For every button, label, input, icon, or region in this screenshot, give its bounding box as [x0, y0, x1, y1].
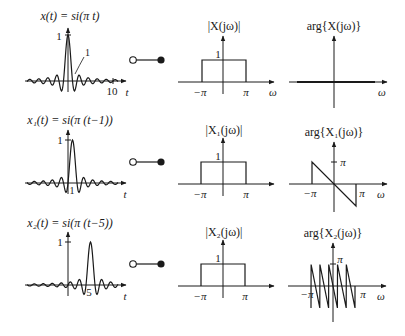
sinc-curve	[27, 35, 118, 91]
tick-label: 5	[86, 286, 92, 298]
tick-label: 1	[70, 185, 75, 196]
phase-plot-x2: arg{X₂(jω)} π −π π ω	[288, 226, 386, 322]
omega-axis-label: ω	[377, 188, 385, 200]
neg-pi-label: −π	[301, 288, 314, 300]
magnitude-plot-x: |X(jω)| 1 −π π ω	[178, 19, 277, 98]
peak-label: 1	[57, 236, 63, 248]
magnitude-title: |X₁(jω)|	[206, 123, 243, 137]
phase-title: arg{X₁(jω)}	[305, 125, 364, 139]
fourier-correspondence-icon	[130, 260, 165, 267]
annotation-label: 1	[85, 47, 90, 58]
t-axis-label: t	[123, 290, 127, 302]
pos-pi-label: π	[243, 86, 249, 98]
magnitude-title: |X(jω)|	[208, 19, 241, 33]
time-title: x(t) = si(π t)	[39, 9, 99, 23]
pos-pi-label: π	[242, 290, 248, 302]
sinc-curve	[27, 242, 118, 294]
time-plot-x: x(t) = si(π t) 1 1 10 t	[25, 9, 129, 98]
pi-label: π	[337, 253, 343, 265]
level-label: 1	[215, 48, 221, 60]
magnitude-title: |X₂(jω)|	[206, 225, 243, 239]
pi-label: π	[340, 156, 346, 168]
level-label: 1	[215, 150, 221, 162]
pos-pi-label: π	[359, 187, 365, 199]
peak-label: 1	[57, 134, 63, 146]
fourier-correspondence-icon	[130, 56, 165, 63]
tick-label: 10	[107, 85, 119, 97]
time-plot-x2: x₂(t) = si(π (t−5)) 1 5 t	[25, 216, 127, 302]
magnitude-plot-x2: |X₂(jω)| 1 −π π	[178, 225, 274, 302]
pos-pi-label: π	[360, 288, 366, 300]
row-3: x₂(t) = si(π (t−5)) 1 5 t |X₂(jω)| 1 −π …	[25, 216, 386, 322]
neg-pi-label: −π	[194, 188, 207, 200]
phase-title: arg{X₂(jω)}	[304, 226, 363, 240]
rect-spectrum	[202, 60, 246, 82]
row-1: x(t) = si(π t) 1 1 10 t |X(jω)| 1 −π π	[25, 9, 387, 108]
neg-pi-label: −π	[194, 290, 207, 302]
row-2: x₁(t) = si(π (t−1)) 1 1 t |X₁(jω)| 1 −π …	[25, 113, 387, 212]
peak-label: 1	[56, 30, 62, 42]
pos-pi-label: π	[243, 188, 249, 200]
annotation-line	[75, 57, 84, 74]
time-title: x₁(t) = si(π (t−1))	[26, 113, 112, 127]
phase-plot-x: arg{X(jω)} ω	[289, 19, 387, 108]
level-label: 1	[215, 252, 221, 264]
t-axis-label: t	[125, 86, 129, 98]
neg-pi-label: −π	[194, 86, 207, 98]
t-axis-label: t	[123, 188, 127, 200]
neg-pi-label: −π	[304, 187, 317, 199]
time-plot-x1: x₁(t) = si(π (t−1)) 1 1 t	[25, 113, 127, 200]
phase-plot-x1: arg{X₁(jω)} π −π π ω	[289, 125, 387, 212]
omega-axis-label: ω	[378, 86, 386, 98]
phase-title: arg{X(jω)}	[307, 19, 362, 33]
fourier-shift-diagram: x(t) = si(π t) 1 1 10 t |X(jω)| 1 −π π	[0, 0, 405, 336]
time-title: x₂(t) = si(π (t−5))	[26, 216, 112, 230]
magnitude-plot-x1: |X₁(jω)| 1 −π π	[178, 123, 274, 200]
omega-axis-label: ω	[269, 86, 277, 98]
fourier-correspondence-icon	[130, 158, 165, 165]
omega-axis-label: ω	[377, 290, 385, 302]
